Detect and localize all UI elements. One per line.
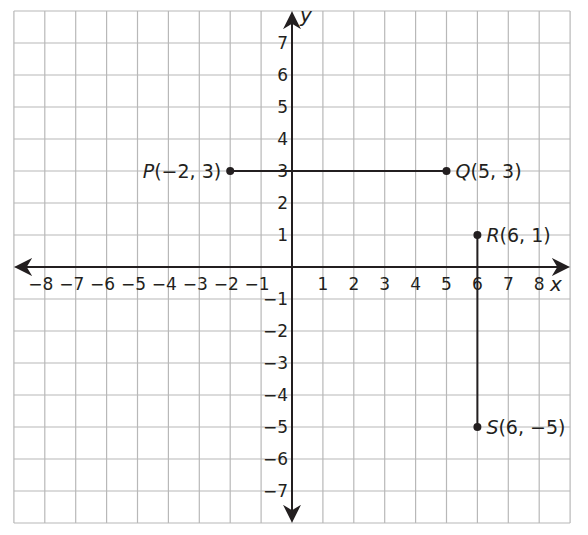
x-tick-label: −7 (59, 274, 84, 294)
x-tick-label: 5 (441, 274, 452, 294)
x-tick-label: −4 (152, 274, 177, 294)
x-tick-label: 4 (410, 274, 421, 294)
axes: xy (16, 3, 568, 521)
x-tick-label: −6 (90, 274, 115, 294)
y-tick-label: 7 (277, 33, 288, 53)
y-tick-label: 4 (277, 129, 288, 149)
point-label: P(−2, 3) (143, 160, 221, 182)
y-tick-label: −6 (263, 449, 288, 469)
point-dot (473, 423, 481, 431)
y-tick-label: −1 (263, 289, 288, 309)
x-tick-label: −8 (28, 274, 53, 294)
point-p: P(−2, 3) (143, 160, 234, 182)
y-tick-label: 6 (277, 65, 288, 85)
y-tick-label: −4 (263, 385, 288, 405)
y-tick-label: −7 (263, 481, 288, 501)
point-label: Q(5, 3) (456, 160, 522, 182)
x-tick-label: −3 (183, 274, 208, 294)
y-tick-label: −5 (263, 417, 288, 437)
x-tick-label: 8 (534, 274, 545, 294)
coordinate-plane-svg: xy −8−7−6−5−4−3−2−112345678−7−6−5−4−3−2−… (0, 0, 588, 535)
x-tick-label: 1 (317, 274, 328, 294)
y-tick-label: −3 (263, 353, 288, 373)
x-tick-label: 3 (379, 274, 390, 294)
x-tick-label: −5 (121, 274, 146, 294)
x-tick-label: 7 (503, 274, 514, 294)
y-tick-label: 2 (277, 193, 288, 213)
point-label: R(6, 1) (486, 224, 550, 246)
point-dot (443, 167, 451, 175)
point-label: S(6, −5) (486, 416, 565, 438)
coordinate-plane: xy −8−7−6−5−4−3−2−112345678−7−6−5−4−3−2−… (0, 0, 588, 535)
x-tick-label: 2 (348, 274, 359, 294)
y-tick-label: −2 (263, 321, 288, 341)
y-tick-label: 5 (277, 97, 288, 117)
x-axis-label: x (549, 272, 562, 296)
y-tick-label: 1 (277, 225, 288, 245)
point-dot (473, 231, 481, 239)
point-dot (226, 167, 234, 175)
point-s: S(6, −5) (473, 416, 565, 438)
x-tick-label: −2 (214, 274, 239, 294)
y-axis-label: y (299, 3, 313, 27)
